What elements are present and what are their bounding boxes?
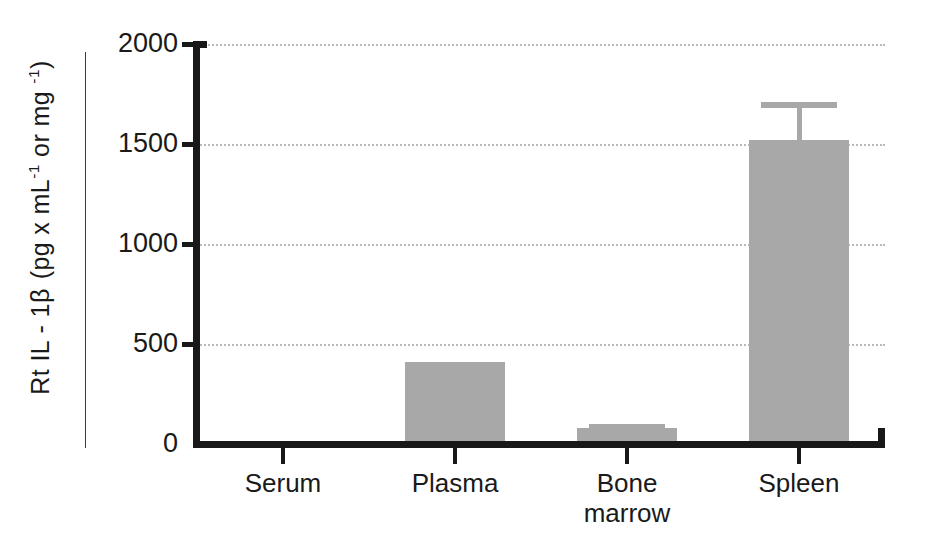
y-axis-unit-open: (pg x mL xyxy=(26,179,54,279)
x-tick-mark-bone-marrow xyxy=(625,448,629,464)
x-category-label-spleen: Spleen xyxy=(699,468,899,498)
x-tick-mark-plasma xyxy=(453,448,457,464)
y-tick-mark-1000 xyxy=(182,242,196,247)
y-tick-label-2000: 2000 xyxy=(118,30,178,57)
x-tick-mark-serum xyxy=(281,448,285,464)
bar-chart-figure: Rt IL - 1β(pg x mL-1 or mg -1) 050010001… xyxy=(0,0,934,545)
gridline-2000 xyxy=(197,44,885,46)
x-axis-right-cap xyxy=(878,428,885,448)
x-tick-mark-spleen xyxy=(797,448,801,464)
bar-spleen xyxy=(749,140,849,444)
y-axis-unit-mid: or mg xyxy=(26,84,54,165)
y-tick-mark-2000 xyxy=(182,42,196,47)
x-category-label-bone-marrow: Bone marrow xyxy=(527,468,727,528)
y-axis-unit-exponent-1: -1 xyxy=(25,164,42,179)
bar-plasma xyxy=(405,362,505,444)
y-tick-mark-1500 xyxy=(182,142,196,147)
y-axis-title-prefix: Rt IL - 1 xyxy=(26,303,54,395)
y-axis-title-area: Rt IL - 1β(pg x mL-1 or mg -1) xyxy=(0,0,78,545)
error-bar-cap-spleen xyxy=(761,102,837,108)
x-axis-spine xyxy=(193,441,885,448)
y-axis-title-beta: β xyxy=(26,288,54,303)
x-category-label-plasma: Plasma xyxy=(355,468,555,498)
y-tick-label-0: 0 xyxy=(163,430,178,457)
y-tick-label-1000: 1000 xyxy=(118,230,178,257)
error-bar-cap-bone-marrow xyxy=(589,424,665,430)
y-axis-title: Rt IL - 1β(pg x mL-1 or mg -1) xyxy=(26,0,55,458)
y-axis-unit-close: ) xyxy=(26,60,54,69)
y-axis-title-divider-rule xyxy=(85,52,86,448)
y-tick-mark-500 xyxy=(182,342,196,347)
plot-area xyxy=(197,44,885,444)
x-category-label-serum: Serum xyxy=(183,468,383,498)
y-axis-unit-exponent-2: -1 xyxy=(25,69,42,84)
y-tick-label-1500: 1500 xyxy=(118,130,178,157)
y-tick-label-500: 500 xyxy=(133,330,178,357)
